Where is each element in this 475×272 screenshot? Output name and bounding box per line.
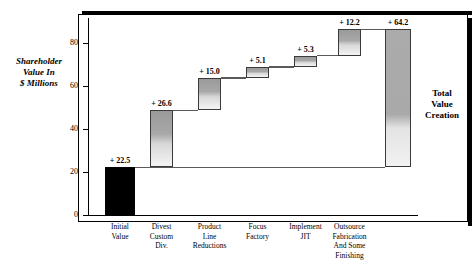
bar-2[interactable] [198, 78, 221, 110]
y-axis-title-line-1: Shareholder [2, 56, 76, 67]
bar-0[interactable] [105, 167, 135, 215]
bar-value-label-5: + 12.2 [339, 18, 360, 27]
baseline-connector [135, 167, 385, 168]
total-annotation-line-0: Total [416, 88, 468, 99]
y-axis-tick [83, 129, 89, 130]
total-top-connector [361, 29, 385, 30]
bar-value-label-3: + 5.1 [249, 56, 266, 65]
bar-value-label-1: + 26.6 [151, 99, 172, 108]
x-axis-line [88, 215, 418, 216]
connector-2 [221, 77, 246, 78]
bar-4[interactable] [294, 56, 317, 67]
y-axis-tick-label: 0 [52, 211, 78, 219]
connector-4 [317, 55, 338, 56]
y-axis-title-line-2: Value In [2, 67, 76, 78]
bar-value-label-2: + 15.0 [199, 67, 220, 76]
connector-3 [269, 66, 294, 67]
bar-value-label-0: + 22.5 [110, 156, 131, 165]
x-axis-label-5: Outsource Fabrication And Some Finishing [320, 222, 380, 260]
total-annotation-line-1: Value [416, 99, 468, 110]
y-axis-line [88, 18, 89, 216]
connector-1 [173, 110, 198, 111]
y-axis-tick-label: 60 [52, 82, 78, 90]
y-axis-tick-label: 80 [52, 39, 78, 47]
frame-shadow-right [468, 18, 472, 226]
y-axis-tick-label: 40 [52, 125, 78, 133]
y-axis-tick [83, 86, 89, 87]
bar-value-label-6: + 64.2 [388, 18, 409, 27]
y-axis-tick-label: 20 [52, 168, 78, 176]
total-annotation-line-2: Creation [416, 110, 468, 121]
y-axis-tick [83, 172, 89, 173]
total-value-creation-annotation: TotalValueCreation [416, 88, 468, 121]
bar-3[interactable] [246, 67, 269, 78]
bar-1[interactable] [150, 110, 173, 167]
bar-6[interactable] [385, 29, 411, 167]
y-axis-tick [83, 215, 89, 216]
bar-5[interactable] [338, 29, 361, 55]
y-axis-tick [83, 43, 89, 44]
bar-value-label-4: + 5.3 [297, 45, 314, 54]
